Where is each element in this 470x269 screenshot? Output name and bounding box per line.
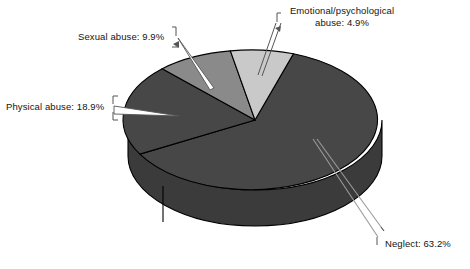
slice-label-sexual: Sexual abuse: 9.9% bbox=[78, 31, 164, 43]
slice-label-emotional-line1: Emotional/psychological bbox=[290, 5, 394, 16]
pie-chart-svg bbox=[0, 0, 470, 269]
slice-label-emotional-line2: abuse: 4.9% bbox=[315, 17, 369, 28]
slice-label-physical: Physical abuse: 18.9% bbox=[6, 101, 104, 113]
pie-chart: Emotional/psychological abuse: 4.9% Sexu… bbox=[0, 0, 470, 269]
pie-top-face bbox=[123, 50, 377, 190]
slice-label-neglect: Neglect: 63.2% bbox=[385, 238, 451, 250]
slice-label-emotional: Emotional/psychological abuse: 4.9% bbox=[282, 5, 402, 28]
